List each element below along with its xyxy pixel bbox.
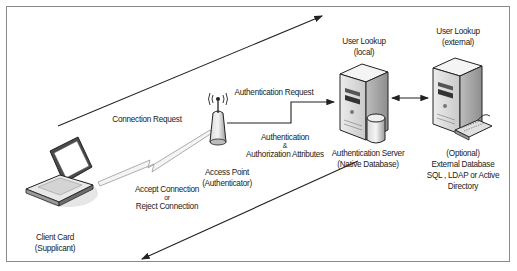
wireless-access-point-icon bbox=[209, 93, 228, 145]
sql-ldap-label: SQL , LDAP or Active bbox=[424, 169, 501, 180]
authentication-server-icon bbox=[340, 64, 388, 143]
optional-label: (Optional) bbox=[424, 147, 501, 158]
authentication-request-label: Authentication Request bbox=[231, 86, 317, 97]
authentication-server-label: Authentication Server bbox=[325, 147, 411, 158]
external-database-server-icon bbox=[433, 58, 492, 140]
client-role-label: (Supplicant) bbox=[25, 242, 85, 253]
external-database-label: External Database bbox=[424, 158, 501, 169]
authentication-request-arrow bbox=[227, 102, 334, 123]
user-lookup-external-subheading: (external) bbox=[432, 36, 484, 47]
access-point-role-label: (Authenticator) bbox=[194, 177, 259, 188]
client-card-label: Client Card bbox=[25, 231, 85, 242]
connection-request-arrow bbox=[58, 16, 322, 126]
user-lookup-local-subheading: (local) bbox=[338, 46, 390, 57]
laptop-icon bbox=[26, 137, 98, 207]
directory-label: Directory bbox=[424, 180, 501, 191]
user-lookup-local-heading: User Lookup bbox=[338, 35, 390, 46]
native-database-label: (Native Database) bbox=[325, 158, 411, 169]
reject-connection-label: Reject Connection bbox=[130, 200, 204, 211]
auth-attributes-label-line3: Authorization Attributes bbox=[241, 148, 329, 159]
connection-request-label: Connection Request bbox=[100, 113, 195, 124]
access-point-label: Access Point bbox=[199, 166, 256, 177]
user-lookup-external-heading: User Lookup bbox=[432, 25, 484, 36]
